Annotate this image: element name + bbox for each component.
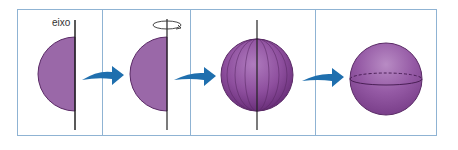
arrow-icon <box>82 66 124 85</box>
semicircle-shape <box>38 37 75 111</box>
diagram-canvas <box>0 0 458 150</box>
panel-3 <box>221 20 293 130</box>
semicircle-shape <box>130 37 167 111</box>
sphere-shape <box>350 43 422 115</box>
arrow-icon <box>302 68 344 87</box>
panel-1 <box>38 20 75 130</box>
panel-4 <box>350 43 422 115</box>
panel-2 <box>130 19 181 130</box>
arrow-icon <box>174 67 216 86</box>
